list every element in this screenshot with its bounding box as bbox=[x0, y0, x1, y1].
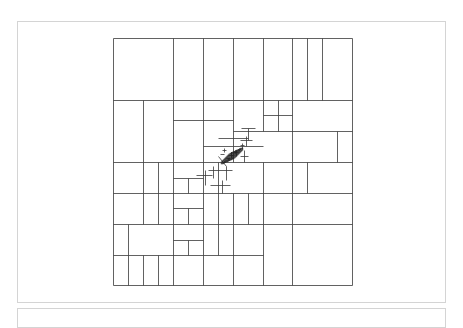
partition-diagram bbox=[0, 0, 463, 317]
